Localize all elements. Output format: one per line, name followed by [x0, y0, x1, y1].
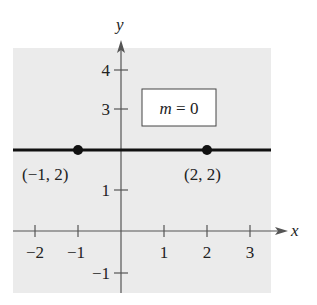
point-2-2 [202, 145, 212, 155]
x-tick-label: −1 [67, 243, 85, 262]
x-tick-label: 1 [160, 243, 169, 262]
slope-annotation: m = 0 [160, 99, 199, 118]
point-neg1-2 [73, 145, 83, 155]
point-label: (−1, 2) [22, 165, 68, 184]
point-label: (2, 2) [184, 165, 221, 184]
x-axis-label: x [290, 221, 299, 240]
slope-value: = 0 [172, 99, 199, 118]
slope-variable: m [160, 99, 172, 118]
y-tick-label: 4 [102, 61, 111, 80]
y-tick-label: 1 [102, 181, 111, 200]
x-tick-label: 2 [203, 243, 212, 262]
chart-svg: x y −2 −1 1 2 3 4 3 1 −1 (−1, 2) (2, 2) … [0, 0, 317, 305]
y-axis-label: y [114, 15, 124, 34]
x-tick-label: −2 [26, 243, 44, 262]
x-tick-label: 3 [246, 243, 255, 262]
chart-figure: x y −2 −1 1 2 3 4 3 1 −1 (−1, 2) (2, 2) … [0, 0, 317, 305]
y-tick-label: 3 [102, 100, 111, 119]
y-tick-label: −1 [92, 264, 110, 283]
